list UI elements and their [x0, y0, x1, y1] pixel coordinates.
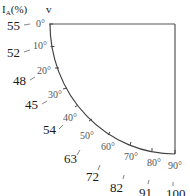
- y-axis-label: IA(%): [2, 4, 27, 17]
- arc-curve: [50, 24, 175, 154]
- angle-label: 40°: [63, 113, 77, 123]
- value-label: 72: [86, 170, 99, 183]
- value-label: 45: [25, 98, 38, 111]
- angle-label: 50°: [80, 131, 94, 141]
- angle-label: 60°: [101, 142, 115, 152]
- angle-label: 20°: [37, 66, 51, 76]
- value-label: 91: [139, 186, 152, 196]
- value-label: 63: [64, 152, 77, 165]
- value-label: 55: [7, 19, 20, 32]
- angle-label: 10°: [33, 41, 47, 51]
- angle-label: 80°: [147, 158, 161, 168]
- angle-label: 90°: [168, 161, 182, 171]
- angle-label: 30°: [48, 90, 62, 100]
- angle-axis-label: v: [46, 4, 52, 15]
- value-label: 52: [7, 46, 20, 59]
- angle-label: 0°: [36, 19, 45, 29]
- value-label: 48: [13, 74, 26, 87]
- value-label: 100: [166, 187, 186, 196]
- value-label: 82: [110, 181, 123, 194]
- angle-label: 70°: [124, 152, 138, 162]
- value-label: 54: [43, 123, 56, 136]
